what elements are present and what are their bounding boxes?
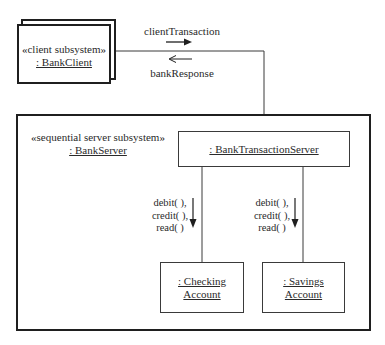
op-debit: debit( ), <box>151 197 189 210</box>
op-read: read( ) <box>151 222 189 235</box>
client-server-link <box>115 51 264 116</box>
response-message-label: bankResponse <box>148 67 216 80</box>
savings-ops: debit( ), credit( ), read( ) <box>253 197 291 235</box>
client-box: «client subsystem» : BankClient <box>17 24 111 84</box>
op-debit: debit( ), <box>253 197 291 210</box>
server-name: : BankServer <box>28 144 168 157</box>
server-stereotype: «sequential server subsystem» <box>28 131 168 144</box>
checking-account-name-1: : Checking <box>161 275 243 288</box>
transaction-server-box: : BankTransactionServer <box>178 131 350 167</box>
savings-account-box: : Savings Account <box>262 262 345 313</box>
savings-account-name-2: Account <box>263 288 344 301</box>
request-message-label: clientTransaction <box>142 25 222 38</box>
request-arrowhead-icon <box>184 39 192 46</box>
client-stereotype: «client subsystem» <box>19 43 109 56</box>
checking-account-name-2: Account <box>161 288 243 301</box>
client-name: : BankClient <box>19 56 109 69</box>
transaction-server-name: : BankTransactionServer <box>179 143 349 156</box>
op-credit: credit( ), <box>253 210 291 223</box>
checking-ops: debit( ), credit( ), read( ) <box>151 197 189 235</box>
savings-account-name-1: : Savings <box>263 275 344 288</box>
checking-account-box: : Checking Account <box>160 262 244 313</box>
op-read: read( ) <box>253 222 291 235</box>
op-credit: credit( ), <box>151 210 189 223</box>
